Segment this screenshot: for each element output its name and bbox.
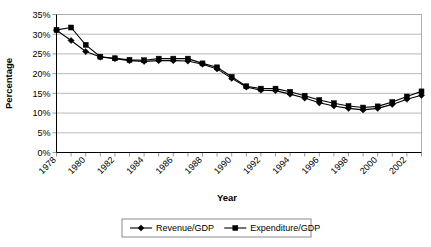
x-tick-label: 2000 [358, 155, 379, 176]
data-point [302, 93, 307, 98]
data-point [404, 94, 409, 99]
series-revenue-gdp [53, 27, 424, 113]
line-chart: 0%5%10%15%20%25%30%35% 19781980198219841… [0, 0, 431, 247]
series-expenditure-gdp [54, 25, 424, 110]
data-point [346, 103, 351, 108]
data-point [317, 98, 322, 103]
data-point [200, 61, 205, 66]
data-point [375, 104, 380, 109]
plot-frame [57, 15, 422, 153]
data-point [258, 86, 263, 91]
y-tick-label: 30% [32, 30, 50, 40]
data-point [69, 25, 74, 30]
series-layer [53, 25, 424, 113]
data-point [419, 89, 424, 94]
x-tick-label: 1992 [241, 155, 262, 176]
chart-container: 0%5%10%15%20%25%30%35% 19781980198219841… [0, 0, 431, 247]
data-point [390, 100, 395, 105]
chart-legend: Revenue/GDPExpenditure/GDP [122, 219, 320, 237]
data-point [98, 54, 103, 59]
x-tick-label: 1996 [299, 155, 320, 176]
data-point [273, 86, 278, 91]
y-tick-label: 5% [37, 128, 50, 138]
data-point [112, 56, 117, 61]
x-tick-label: 1978 [37, 155, 58, 176]
x-tick-label: 1984 [124, 155, 145, 176]
data-point [331, 101, 336, 106]
y-tick-label: 25% [32, 49, 50, 59]
data-point [361, 105, 366, 110]
x-axis-title: Year [217, 192, 237, 203]
x-tick-label: 1994 [270, 155, 291, 176]
gridlines-group [57, 15, 422, 133]
x-tick-label: 1980 [66, 155, 87, 176]
x-tick-marks-group [57, 153, 422, 157]
data-point [215, 65, 220, 70]
data-point [185, 56, 190, 61]
y-tick-label: 15% [32, 89, 50, 99]
y-tick-label: 10% [32, 108, 50, 118]
y-tick-label: 20% [32, 69, 50, 79]
x-tick-label: 1998 [329, 155, 350, 176]
data-point [54, 27, 59, 32]
data-point [83, 42, 88, 47]
x-tick-label: 1982 [95, 155, 116, 176]
data-point [127, 57, 132, 62]
data-point [229, 74, 234, 79]
x-tick-label: 1990 [212, 155, 233, 176]
y-axis-tick-labels: 0%5%10%15%20%25%30%35% [32, 10, 50, 158]
data-point [171, 56, 176, 61]
x-tick-label: 1988 [183, 155, 204, 176]
y-axis-title: Percentage [3, 58, 14, 109]
data-point [156, 56, 161, 61]
data-point [244, 84, 249, 89]
y-tick-marks-group [53, 15, 57, 153]
data-point [142, 58, 147, 63]
legend-label: Expenditure/GDP [250, 223, 320, 233]
data-point [288, 89, 293, 94]
legend-label: Revenue/GDP [156, 223, 214, 233]
x-tick-label: 2002 [387, 155, 408, 176]
y-tick-label: 35% [32, 10, 50, 20]
x-tick-label: 1986 [153, 155, 174, 176]
x-axis-tick-labels: 1978198019821984198619881990199219941996… [37, 155, 409, 176]
